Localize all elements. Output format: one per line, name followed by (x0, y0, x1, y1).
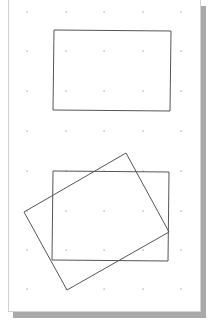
grid-dot (27, 250, 28, 251)
grid-dot (143, 12, 144, 13)
grid-dot (143, 211, 144, 212)
grid-dot (66, 12, 67, 13)
grid-dot (27, 51, 28, 52)
grid-dot (66, 250, 67, 251)
grid-dot (143, 250, 144, 251)
grid-dot (143, 131, 144, 132)
grid-dot (181, 91, 182, 92)
grid-dot (181, 171, 182, 172)
grid-dot (181, 211, 182, 212)
grid-dot (181, 12, 182, 13)
grid-dot (27, 12, 28, 13)
diagram-canvas (0, 0, 211, 321)
grid-dot (104, 131, 105, 132)
grid-dot (104, 211, 105, 212)
grid-dot (143, 91, 144, 92)
grid-dot (66, 51, 67, 52)
grid-dot (104, 289, 105, 290)
grid-dot (104, 91, 105, 92)
page-sheet (9, 0, 201, 312)
grid-dot (181, 250, 182, 251)
grid-dot (66, 91, 67, 92)
grid-dot (143, 289, 144, 290)
grid-dot (143, 51, 144, 52)
grid-dot (66, 131, 67, 132)
grid-dot (27, 131, 28, 132)
grid-dot (104, 12, 105, 13)
grid-dot (27, 289, 28, 290)
grid-dot (27, 91, 28, 92)
grid-dot (104, 250, 105, 251)
grid-dot (104, 51, 105, 52)
grid-dot (66, 211, 67, 212)
grid-dot (181, 289, 182, 290)
grid-dot (181, 51, 182, 52)
grid-dot (27, 171, 28, 172)
grid-dot (181, 131, 182, 132)
